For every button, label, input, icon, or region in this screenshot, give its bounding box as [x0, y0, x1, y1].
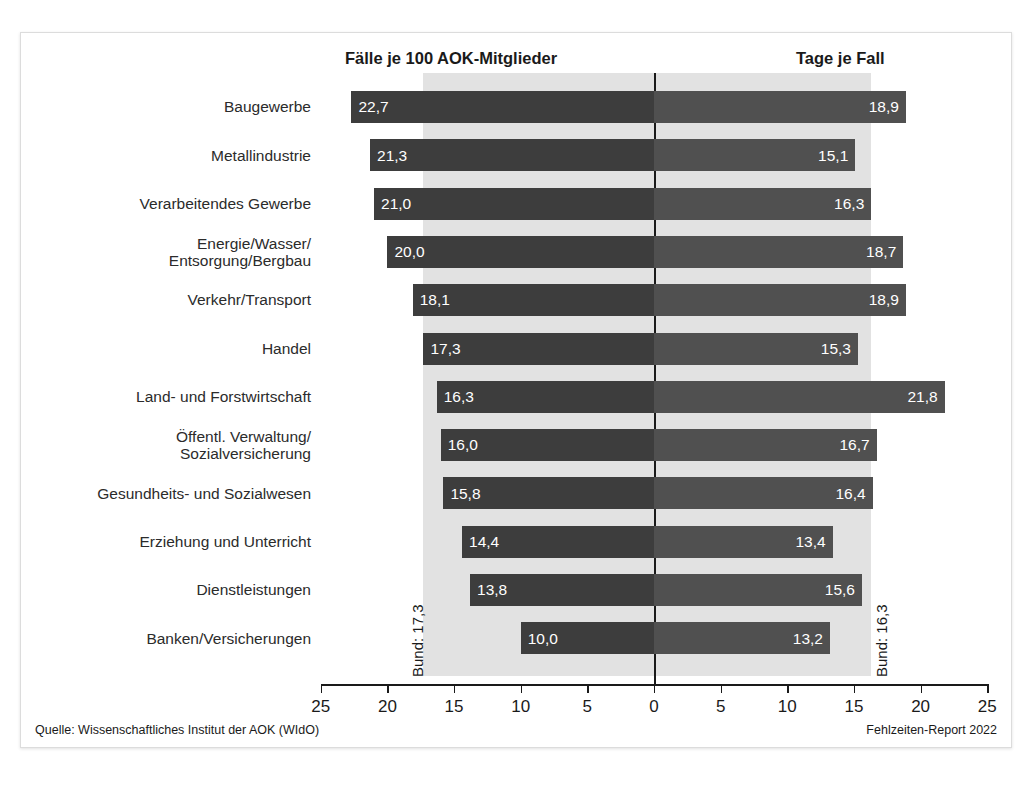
bar-faelle: 21,0: [374, 188, 654, 220]
bar-value-left: 16,0: [448, 437, 478, 453]
axis-tick: [721, 684, 722, 693]
category-label: Metallindustrie: [211, 147, 311, 164]
chart-row: Energie/Wasser/ Entsorgung/Bergbau20,018…: [21, 236, 1013, 268]
bar-value-left: 16,3: [444, 389, 474, 405]
bar-tage: 16,7: [654, 429, 877, 461]
reference-label-right: Bund: 16,3: [873, 604, 890, 677]
axis-tick: [987, 684, 988, 693]
bar-faelle: 18,1: [413, 284, 654, 316]
chart-row: Gesundheits- und Sozialwesen15,816,4: [21, 477, 1013, 509]
bar-value-left: 17,3: [430, 341, 460, 357]
bar-value-right: 15,3: [821, 341, 851, 357]
chart-row: Dienstleistungen13,815,6: [21, 574, 1013, 606]
category-label: Land- und Forstwirtschaft: [136, 388, 311, 405]
reference-label-left: Bund: 17,3: [409, 604, 426, 677]
source-note: Quelle: Wissenschaftliches Institut der …: [35, 723, 319, 737]
plot-area: Baugewerbe22,718,9Metallindustrie21,315,…: [21, 33, 1013, 749]
axis-tick: [521, 684, 522, 693]
bar-value-right: 16,4: [835, 486, 865, 502]
bar-tage: 18,7: [654, 236, 903, 268]
bar-value-left: 15,8: [450, 486, 480, 502]
axis-tick: [854, 684, 855, 693]
axis-tick-label: 20: [911, 697, 930, 717]
category-label: Verkehr/Transport: [188, 291, 311, 308]
bar-tage: 15,6: [654, 574, 862, 606]
bar-value-right: 18,7: [866, 244, 896, 260]
bar-value-left: 21,3: [377, 148, 407, 164]
bar-faelle: 17,3: [423, 333, 654, 365]
chart-row: Verarbeitendes Gewerbe21,016,3: [21, 188, 1013, 220]
axis-tick: [654, 684, 655, 693]
bar-faelle: 15,8: [443, 477, 654, 509]
category-label: Gesundheits- und Sozialwesen: [97, 485, 311, 502]
category-label: Verarbeitendes Gewerbe: [140, 195, 311, 212]
category-label: Erziehung und Unterricht: [140, 533, 311, 550]
bar-tage: 15,3: [654, 333, 858, 365]
bar-value-right: 18,9: [869, 99, 899, 115]
bar-value-right: 18,9: [869, 292, 899, 308]
chart-figure: Fälle je 100 AOK-Mitglieder Tage je Fall…: [20, 32, 1012, 748]
bar-value-right: 15,1: [818, 148, 848, 164]
chart-row: Erziehung und Unterricht14,413,4: [21, 526, 1013, 558]
axis-tick: [454, 684, 455, 693]
axis-tick-label: 15: [445, 697, 464, 717]
axis-tick: [387, 684, 388, 693]
bar-value-left: 18,1: [420, 292, 450, 308]
bar-tage: 18,9: [654, 284, 906, 316]
bar-value-right: 15,6: [825, 582, 855, 598]
axis-tick: [321, 684, 322, 693]
category-label: Öffentl. Verwaltung/ Sozialversicherung: [176, 428, 311, 463]
chart-row: Banken/Versicherungen10,013,2: [21, 622, 1013, 654]
bar-faelle: 16,3: [437, 381, 654, 413]
bar-tage: 16,4: [654, 477, 873, 509]
bar-tage: 18,9: [654, 91, 906, 123]
category-label: Dienstleistungen: [196, 581, 311, 598]
bar-value-right: 13,2: [793, 631, 823, 647]
axis-tick-label: 10: [778, 697, 797, 717]
bar-faelle: 13,8: [470, 574, 654, 606]
report-note: Fehlzeiten-Report 2022: [866, 723, 997, 737]
bar-value-left: 13,8: [477, 582, 507, 598]
bar-tage: 16,3: [654, 188, 871, 220]
bar-value-right: 21,8: [907, 389, 937, 405]
bar-tage: 15,1: [654, 139, 855, 171]
bar-faelle: 20,0: [387, 236, 654, 268]
axis-tick-label: 5: [716, 697, 725, 717]
axis-tick-label: 0: [649, 697, 658, 717]
bar-faelle: 22,7: [351, 91, 654, 123]
axis-tick: [787, 684, 788, 693]
bar-value-right: 13,4: [795, 534, 825, 550]
chart-row: Verkehr/Transport18,118,9: [21, 284, 1013, 316]
category-label: Handel: [262, 340, 311, 357]
chart-row: Land- und Forstwirtschaft16,321,8: [21, 381, 1013, 413]
bar-value-left: 14,4: [469, 534, 499, 550]
bar-tage: 21,8: [654, 381, 945, 413]
category-label: Energie/Wasser/ Entsorgung/Bergbau: [169, 235, 311, 270]
axis-tick-label: 15: [844, 697, 863, 717]
bar-faelle: 21,3: [370, 139, 654, 171]
bar-faelle: 10,0: [521, 622, 654, 654]
bar-value-left: 21,0: [381, 196, 411, 212]
chart-row: Handel17,315,3: [21, 333, 1013, 365]
bar-value-right: 16,7: [839, 437, 869, 453]
axis-tick-label: 25: [978, 697, 997, 717]
chart-row: Öffentl. Verwaltung/ Sozialversicherung1…: [21, 429, 1013, 461]
bar-faelle: 14,4: [462, 526, 654, 558]
chart-row: Baugewerbe22,718,9: [21, 91, 1013, 123]
axis-tick: [921, 684, 922, 693]
bar-value-left: 10,0: [528, 631, 558, 647]
bar-tage: 13,4: [654, 526, 833, 558]
axis-tick-label: 5: [583, 697, 592, 717]
bar-value-left: 20,0: [394, 244, 424, 260]
category-label: Baugewerbe: [224, 98, 311, 115]
axis-tick-label: 10: [511, 697, 530, 717]
axis-tick-label: 20: [378, 697, 397, 717]
bar-value-left: 22,7: [358, 99, 388, 115]
axis-tick: [587, 684, 588, 693]
bar-faelle: 16,0: [441, 429, 654, 461]
bar-tage: 13,2: [654, 622, 830, 654]
axis-tick-label: 25: [311, 697, 330, 717]
category-label: Banken/Versicherungen: [146, 630, 311, 647]
chart-row: Metallindustrie21,315,1: [21, 139, 1013, 171]
bar-value-right: 16,3: [834, 196, 864, 212]
